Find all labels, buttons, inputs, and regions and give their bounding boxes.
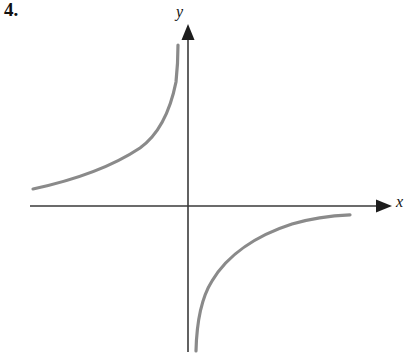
hyperbola-plot [0,0,413,364]
curve-branch-upper-left [33,45,178,189]
x-axis-arrowhead-icon [376,200,392,213]
x-axis-label: x [396,194,403,210]
y-axis-label: y [176,4,183,20]
y-axis-arrowhead-icon [182,24,195,40]
curve-branch-lower-right [196,215,350,351]
figure-container: 4. y x [0,0,413,364]
